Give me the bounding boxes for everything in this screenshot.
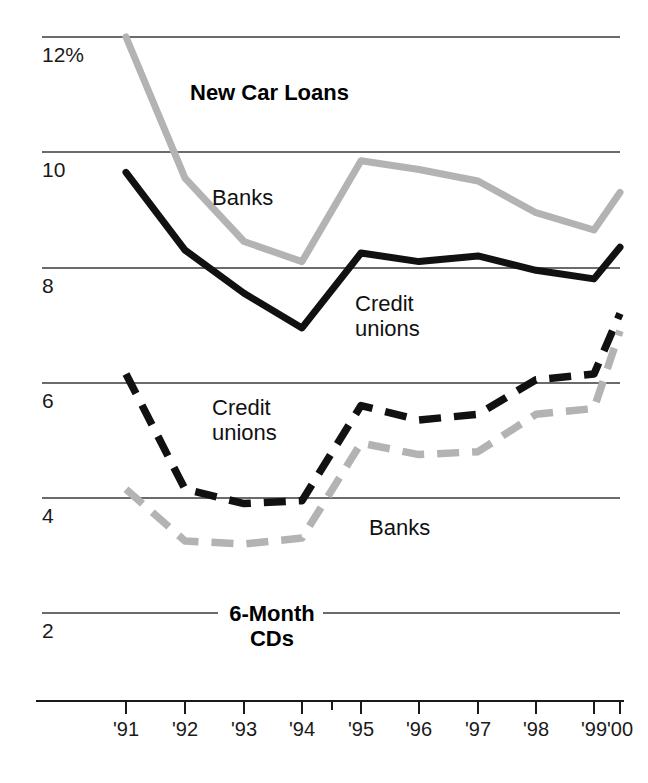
panel-title-6-month-cds-line1: 6-Month (222, 601, 322, 626)
series-label-lower-banks: Banks (369, 516, 430, 541)
y-tick-label-2: 2 (42, 619, 54, 643)
x-tick-label-1993: '93 (231, 718, 257, 741)
interest-rates-chart: 12% 10 8 6 4 2 '91 '92 '93 '94 '95 '96 '… (0, 0, 648, 783)
x-tick-label-1995: '95 (348, 718, 374, 741)
x-tick-label-1997: '97 (465, 718, 491, 741)
y-tick-label-10: 10 (42, 158, 65, 182)
x-tick-label-1998: '98 (523, 718, 549, 741)
series-label-upper-credit-unions-line1: Credit (355, 292, 420, 317)
x-tick-label-1999: '99 (581, 718, 607, 741)
series-label-upper-credit-unions-line2: unions (355, 317, 420, 342)
series-label-lower-credit-unions: Credit unions (212, 396, 277, 445)
series-label-lower-credit-unions-line1: Credit (212, 396, 277, 421)
x-tick-label-2000: '00 (607, 718, 633, 741)
x-tick-label-1991: '91 (113, 718, 139, 741)
x-tick-label-1992: '92 (172, 718, 198, 741)
y-tick-label-12: 12% (42, 43, 84, 67)
y-tick-label-6: 6 (42, 389, 54, 413)
chart-canvas (0, 0, 648, 783)
series-line-cds-credit-unions (126, 314, 620, 504)
panel-title-6-month-cds-line2: CDs (222, 626, 322, 651)
series-line-cds-banks (126, 331, 620, 544)
series-line-new-car-loans-banks (126, 37, 620, 262)
x-tick-label-1994: '94 (289, 718, 315, 741)
gridlines (42, 37, 620, 613)
panel-title-6-month-cds: 6-Month CDs (222, 601, 322, 651)
x-axis (36, 701, 624, 714)
series-label-upper-credit-unions: Credit unions (355, 292, 420, 341)
y-tick-label-8: 8 (42, 274, 54, 298)
series-label-upper-banks: Banks (212, 186, 273, 211)
series-label-lower-credit-unions-line2: unions (212, 421, 277, 446)
x-tick-label-1996: '96 (406, 718, 432, 741)
y-tick-label-4: 4 (42, 504, 54, 528)
panel-title-new-car-loans: New Car Loans (190, 80, 349, 105)
